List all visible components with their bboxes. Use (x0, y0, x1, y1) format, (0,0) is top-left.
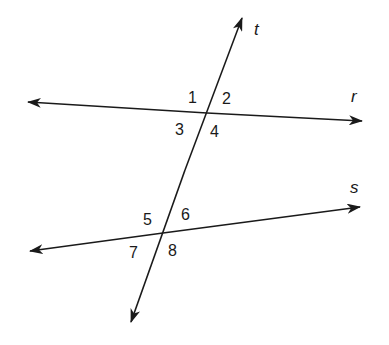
label-t: t (254, 20, 260, 39)
angle-3: 3 (175, 121, 184, 138)
line-s (30, 207, 360, 251)
line-s-left-arrow-icon (30, 233, 163, 251)
angle-4: 4 (210, 123, 219, 140)
label-s: s (350, 178, 359, 197)
angle-1: 1 (188, 89, 197, 106)
line-r-left-arrow-icon (28, 102, 207, 113)
line-t (131, 18, 242, 322)
line-s-right-arrow-icon (163, 207, 360, 233)
angle-5: 5 (143, 211, 152, 228)
line-r-right-arrow-icon (207, 113, 362, 121)
angle-6: 6 (181, 206, 190, 223)
angle-8: 8 (168, 242, 177, 259)
angle-2: 2 (222, 90, 231, 107)
angle-7: 7 (129, 244, 138, 261)
diagram-canvas: t r s 1 2 3 4 5 6 7 8 (0, 0, 389, 345)
label-r: r (351, 87, 358, 106)
